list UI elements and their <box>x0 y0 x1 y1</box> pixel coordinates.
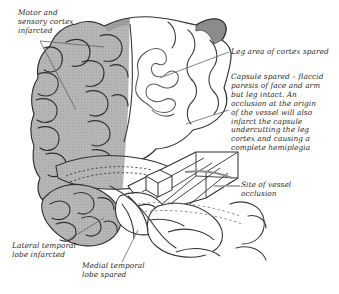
label-site-of-vessel-occlusion: Site of vessel occlusion <box>241 181 337 199</box>
label-lateral-temporal-lobe-infarcted: Lateral temporal lobe infarcted <box>12 242 108 260</box>
label-capsule-spared: Capsule spared – flaccid paresis of face… <box>231 73 335 153</box>
illustration-figure: Motor and sensory cortex infarcted Leg a… <box>0 0 339 294</box>
leader-medial-temporal <box>122 230 138 262</box>
temporal-lobe-infarct-fill <box>42 184 122 245</box>
label-leg-area-of-cortex-spared: Leg area of cortex spared <box>231 48 337 57</box>
label-medial-temporal-lobe-spared: Medial temporal lobe spared <box>82 262 182 280</box>
posterior-fossa-contours <box>230 202 266 260</box>
label-motor-sensory-cortex-infarcted: Motor and sensory cortex infarcted <box>18 9 100 36</box>
